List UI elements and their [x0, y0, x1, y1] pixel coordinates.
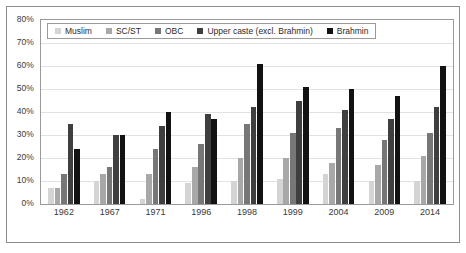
bar-group: [407, 20, 453, 204]
bar-group: [87, 20, 133, 204]
bar: [166, 112, 172, 204]
x-axis-tick-label: 1962: [54, 207, 74, 217]
bar: [94, 181, 100, 204]
legend-label: OBC: [165, 27, 183, 36]
bar-group: [316, 20, 362, 204]
bar: [231, 181, 237, 204]
legend-swatch-icon: [106, 28, 112, 34]
bar: [440, 66, 446, 204]
bar: [296, 101, 302, 205]
bar: [244, 124, 250, 205]
x-axis-tick-label: 2009: [374, 207, 394, 217]
bar: [48, 188, 54, 204]
bar: [74, 149, 80, 204]
bar: [342, 110, 348, 204]
bar: [303, 87, 309, 204]
y-axis-tick-label: 40%: [17, 106, 34, 116]
bar: [329, 163, 335, 204]
x-axis-tick-label: 1999: [283, 207, 303, 217]
bar: [198, 144, 204, 204]
x-axis-tick-label: 1971: [145, 207, 165, 217]
bar: [336, 128, 342, 204]
legend-swatch-icon: [55, 28, 61, 34]
legend-label: Upper caste (excl. Brahmin): [207, 27, 312, 36]
bar: [100, 174, 106, 204]
bar-group: [224, 20, 270, 204]
bar-group: [178, 20, 224, 204]
legend-item[interactable]: OBC: [155, 27, 183, 36]
x-axis-tick-label: 1996: [191, 207, 211, 217]
bar: [211, 119, 217, 204]
bar: [277, 179, 283, 204]
bar-group: [270, 20, 316, 204]
bar: [427, 133, 433, 204]
legend-swatch-icon: [327, 28, 333, 34]
bar: [113, 135, 119, 204]
legend-item[interactable]: Brahmin: [327, 27, 369, 36]
bar-group: [41, 20, 87, 204]
bar: [107, 167, 113, 204]
y-axis-tick-label: 50%: [17, 83, 34, 93]
bar: [146, 174, 152, 204]
bar: [369, 181, 375, 204]
legend-item[interactable]: SC/ST: [106, 27, 141, 36]
bar-group: [361, 20, 407, 204]
x-axis: 196219671971199619981999200420092014: [41, 207, 453, 225]
x-axis-tick-label: 1967: [100, 207, 120, 217]
bar: [323, 174, 329, 204]
y-axis-tick-label: 0%: [22, 198, 35, 208]
chart-legend: MuslimSC/STOBCUpper caste (excl. Brahmin…: [47, 23, 376, 39]
bar: [421, 156, 427, 204]
bar: [257, 64, 263, 204]
legend-label: Muslim: [65, 27, 92, 36]
bar: [140, 199, 146, 204]
y-axis-tick-label: 20%: [17, 152, 34, 162]
bar: [395, 96, 401, 204]
bar: [283, 158, 289, 204]
bar: [388, 119, 394, 204]
bar: [61, 174, 67, 204]
bar: [68, 124, 74, 205]
y-axis-tick-label: 10%: [17, 175, 34, 185]
x-axis-tick-label: 1998: [237, 207, 257, 217]
x-axis-tick-label: 2014: [420, 207, 440, 217]
bar: [153, 149, 159, 204]
x-axis-tick-label: 2004: [329, 207, 349, 217]
y-axis-tick-label: 30%: [17, 129, 34, 139]
y-axis-tick-label: 70%: [17, 37, 34, 47]
bar: [434, 107, 440, 204]
bar: [159, 126, 165, 204]
bar-group: [133, 20, 179, 204]
bar: [192, 167, 198, 204]
legend-label: SC/ST: [116, 27, 141, 36]
bars-layer: [41, 20, 453, 204]
bar: [185, 183, 191, 204]
legend-swatch-icon: [155, 28, 161, 34]
bar: [382, 140, 388, 204]
legend-item[interactable]: Upper caste (excl. Brahmin): [197, 27, 312, 36]
legend-label: Brahmin: [337, 27, 369, 36]
bar: [414, 181, 420, 204]
bar: [375, 165, 381, 204]
bar: [205, 114, 211, 204]
bar: [290, 133, 296, 204]
y-axis-tick-label: 60%: [17, 60, 34, 70]
legend-swatch-icon: [197, 28, 203, 34]
y-axis: 0%10%20%30%40%50%60%70%80%: [0, 19, 38, 205]
bar: [55, 188, 61, 204]
bar: [238, 158, 244, 204]
y-axis-tick-label: 80%: [17, 14, 34, 24]
bar: [251, 107, 257, 204]
legend-item[interactable]: Muslim: [55, 27, 92, 36]
bar: [120, 135, 126, 204]
bar-chart: 0%10%20%30%40%50%60%70%80% 1962196719711…: [0, 0, 466, 253]
bar: [349, 89, 355, 204]
